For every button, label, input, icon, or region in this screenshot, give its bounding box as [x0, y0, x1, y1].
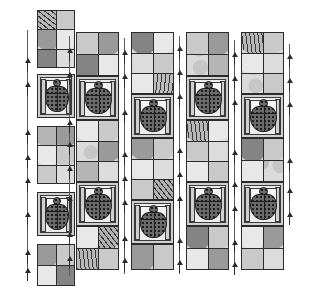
- chevron-half-r: [56, 11, 74, 29]
- chevron-centre-seam: [98, 33, 99, 54]
- chevron-centre-seam: [208, 249, 209, 270]
- chevron-wedge: [208, 121, 229, 141]
- column-column-5[interactable]: [241, 32, 284, 270]
- chevron-half-l: [77, 142, 98, 162]
- chevron-half-l: [38, 266, 56, 286]
- chevron-wedge: [132, 54, 153, 74]
- section-arrow-mark: [121, 176, 128, 189]
- chevron-centre-seam: [98, 142, 99, 162]
- chevron-centre-seam: [56, 127, 57, 145]
- chevron-wedge: [208, 55, 229, 76]
- arrow-head-icon: [122, 50, 128, 55]
- section-arrow-mark: [176, 260, 183, 273]
- chevron-block-c4-b1[interactable]: [186, 32, 229, 76]
- arrow-head-icon: [177, 260, 183, 265]
- figure-cross-bar: [140, 113, 167, 114]
- section-arrow-mark: [24, 212, 31, 225]
- column-column-2[interactable]: [76, 32, 119, 270]
- chevron-block-c4-b5[interactable]: [186, 226, 229, 270]
- figure-block-c5-b2[interactable]: [241, 94, 284, 138]
- chevron-block-c2-b5[interactable]: [76, 226, 119, 270]
- chevron-row: [242, 161, 283, 182]
- arrow-head-icon: [232, 76, 238, 81]
- figure-block-c3-b2[interactable]: [131, 94, 174, 138]
- chevron-wedge: [263, 33, 284, 53]
- chevron-half-r: [208, 55, 229, 76]
- chevron-wedge: [208, 142, 229, 162]
- arrow-head-icon: [67, 232, 73, 237]
- figure-centre-split: [99, 88, 100, 114]
- chevron-half-l: [132, 160, 153, 180]
- chevron-half-r: [98, 121, 119, 141]
- chevron-wedge: [38, 245, 56, 265]
- column-column-4[interactable]: [186, 32, 229, 270]
- chevron-half-l: [38, 166, 56, 184]
- figure-block-c4-b2[interactable]: [186, 76, 229, 120]
- section-arrow-mark: [231, 240, 238, 253]
- figure-block-c2-b2[interactable]: [76, 76, 119, 120]
- chevron-row: [132, 139, 173, 160]
- section-arrow-mark: [24, 268, 31, 281]
- chevron-wedge: [187, 227, 208, 248]
- chevron-wedge: [187, 142, 208, 162]
- figure-cross-bar: [46, 93, 68, 94]
- section-arrow-mark: [121, 236, 128, 249]
- section-arrow-mark: [121, 258, 128, 271]
- chevron-half-r: [153, 54, 174, 74]
- chevron-wedge: [263, 54, 284, 74]
- chevron-row: [38, 11, 74, 30]
- chevron-row: [187, 121, 228, 142]
- chevron-block-c5-b5[interactable]: [241, 226, 284, 270]
- chevron-block-c3-b5[interactable]: [131, 244, 174, 270]
- figure-block-c3-b4[interactable]: [131, 200, 174, 244]
- chevron-half-r: [208, 142, 229, 162]
- chevron-block-c4-b3[interactable]: [186, 120, 229, 182]
- figure-cross-bar: [195, 201, 222, 202]
- chevron-wedge: [263, 161, 284, 182]
- chevron-row: [77, 249, 118, 270]
- chevron-block-c2-b1[interactable]: [76, 32, 119, 76]
- chevron-row: [242, 33, 283, 54]
- chevron-row: [187, 142, 228, 163]
- chevron-centre-seam: [98, 162, 99, 182]
- chevron-half-l: [77, 227, 98, 248]
- figure-block-c2-b4[interactable]: [76, 182, 119, 226]
- column-column-3[interactable]: [131, 32, 174, 270]
- chevron-half-l: [187, 55, 208, 76]
- chevron-half-r: [98, 227, 119, 248]
- chevron-centre-seam: [56, 30, 57, 48]
- chevron-wedge: [77, 249, 98, 270]
- chevron-wedge: [132, 160, 153, 180]
- chevron-block-c2-b3[interactable]: [76, 120, 119, 182]
- chevron-centre-seam: [56, 245, 57, 265]
- figure-block-c4-b4[interactable]: [186, 182, 229, 226]
- chevron-block-c5-b1[interactable]: [241, 32, 284, 94]
- chevron-row: [242, 139, 283, 161]
- section-arrow-mark: [176, 238, 183, 251]
- chevron-centre-seam: [263, 33, 264, 53]
- figure-centre-split: [99, 194, 100, 220]
- chevron-half-l: [132, 74, 153, 94]
- chevron-wedge: [56, 266, 74, 286]
- chevron-half-r: [153, 74, 174, 94]
- chevron-wedge: [208, 249, 229, 270]
- chevron-block-c3-b3[interactable]: [131, 138, 174, 200]
- arrow-head-icon: [122, 258, 128, 263]
- chevron-wedge: [38, 11, 56, 29]
- figure-cross-bar: [250, 113, 277, 114]
- arrow-head-icon: [25, 178, 31, 183]
- chevron-centre-seam: [98, 55, 99, 76]
- figure-block-c5-b4[interactable]: [241, 182, 284, 226]
- chevron-wedge: [98, 227, 119, 248]
- arrow-head-icon: [25, 58, 31, 63]
- chevron-wedge: [187, 55, 208, 76]
- chevron-centre-seam: [208, 33, 209, 54]
- chevron-row: [77, 55, 118, 76]
- chevron-wedge: [132, 74, 153, 94]
- arrow-head-icon: [177, 148, 183, 153]
- chevron-wedge: [242, 139, 263, 160]
- chevron-wedge: [77, 142, 98, 162]
- chevron-wedge: [132, 139, 153, 159]
- chevron-block-c3-b1[interactable]: [131, 32, 174, 94]
- chevron-block-c5-b3[interactable]: [241, 138, 284, 182]
